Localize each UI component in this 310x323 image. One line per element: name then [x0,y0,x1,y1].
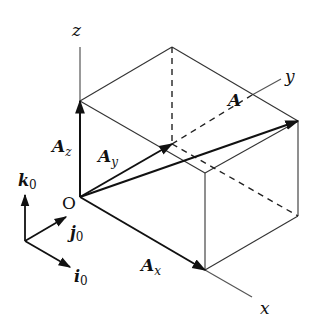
z-axis-label: z [71,20,82,40]
basis-k-label: k0 [18,171,37,192]
x-axis-label: x [260,298,270,318]
origin-label: O [62,193,76,213]
basis-j-arrow [25,217,66,241]
y-axis-label: y [284,66,295,86]
vector-ay-label: Ay [96,146,118,169]
vector-ax-label: Ax [139,255,161,278]
vector-az-label: Az [50,136,72,159]
basis-i-arrow [25,241,70,267]
vector-a-label: A [226,90,241,110]
basis-i-label: i0 [74,267,88,288]
y-axis-visible-segment [252,79,281,95]
x-axis-extension [205,270,252,297]
vector-diagram: z y x O A Az Ay Ax k0 j0 i0 [0,0,310,323]
basis-j-label: j0 [67,223,83,244]
